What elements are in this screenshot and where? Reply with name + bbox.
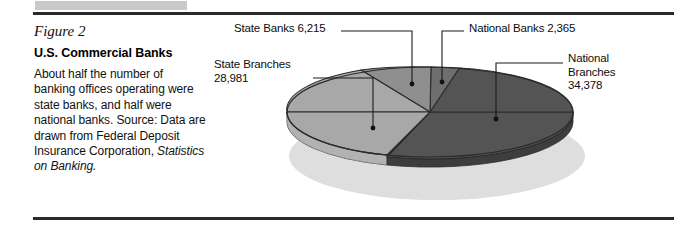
figure-caption-block: Figure 2 U.S. Commercial Banks About hal… <box>34 22 206 175</box>
bottom-horizontal-rule <box>33 217 674 220</box>
dot-state-branches <box>371 126 376 131</box>
figure-body-text: About half the number of banking offices… <box>34 67 206 175</box>
figure-number: Figure 2 <box>34 22 206 40</box>
callout-national-branches: National Branches 34,378 <box>568 52 615 93</box>
top-gray-tab <box>35 1 187 10</box>
figure-page: Figure 2 U.S. Commercial Banks About hal… <box>0 0 674 230</box>
callout-national-banks: National Banks 2,365 <box>469 22 575 36</box>
pie-chart <box>215 14 674 210</box>
dot-state-banks <box>410 82 415 87</box>
dot-national-banks <box>440 80 445 85</box>
dot-national-branches <box>494 117 499 122</box>
figure-title: U.S. Commercial Banks <box>34 45 206 61</box>
callout-state-branches: State Branches 28,981 <box>214 58 291 85</box>
callout-state-banks: State Banks 6,215 <box>234 22 325 36</box>
